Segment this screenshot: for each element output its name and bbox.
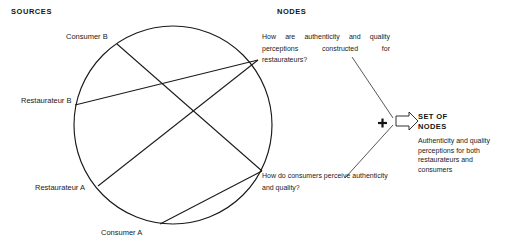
sources-circle bbox=[74, 26, 272, 224]
node-question-restaurateurs: How are authenticity and quality percept… bbox=[262, 31, 390, 66]
set-of-nodes-title: SET OF NODES bbox=[418, 112, 508, 131]
source-label-restaurateur-b: Restaurateur B bbox=[21, 96, 71, 105]
edge-restaurateur-b-to-restaurateurs-question bbox=[75, 60, 258, 105]
connector-restaurateurs-question-to-output bbox=[352, 57, 393, 118]
set-of-nodes-group: SET OF NODES Authenticity and quality pe… bbox=[418, 112, 508, 174]
edge-consumer-b-to-consumers-question bbox=[117, 44, 262, 171]
source-label-consumer-b: Consumer B bbox=[66, 32, 108, 41]
source-label-restaurateur-a: Restaurateur A bbox=[35, 183, 85, 192]
set-of-nodes-title-line1: SET OF bbox=[418, 112, 448, 121]
set-of-nodes-title-line2: NODES bbox=[418, 122, 447, 131]
edge-restaurateur-a-to-restaurateurs-question bbox=[98, 60, 258, 186]
set-of-nodes-description: Authenticity and quality perceptions for… bbox=[418, 136, 508, 174]
source-label-consumer-a: Consumer A bbox=[101, 228, 142, 237]
node-question-consumers: How do consumers perceive authenticity a… bbox=[262, 170, 394, 193]
diagram-canvas: SOURCES NODES Consumer B Restaurateur B … bbox=[0, 0, 510, 247]
block-arrow-right-icon bbox=[396, 112, 418, 130]
